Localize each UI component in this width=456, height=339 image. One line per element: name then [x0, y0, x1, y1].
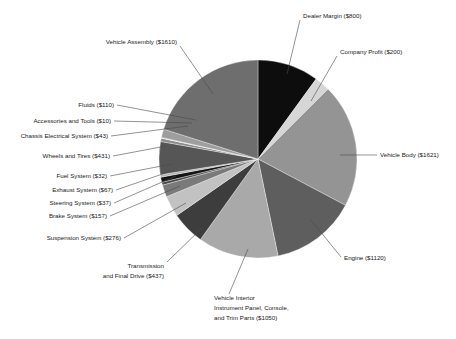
- label-steering: Steering System ($37): [49, 199, 111, 206]
- label-fuel: Fuel System ($32): [56, 172, 107, 179]
- label-exhaust: Exhaust System ($67): [52, 186, 113, 193]
- leader-line-transmission: [167, 227, 203, 262]
- label-fluids: Fluids ($110): [78, 101, 114, 108]
- label-brake: Brake System ($157): [49, 212, 107, 219]
- label-transmission-line2: and Final Drive ($437): [103, 272, 164, 279]
- label-vehicle-interior-line2: Instrument Panel, Console,: [214, 304, 289, 311]
- label-accessories: Accessories and Tools ($10): [33, 117, 111, 124]
- label-vehicle-interior-line1: Vehicle Interior: [214, 294, 255, 301]
- label-dealer-margin: Dealer Margin ($800): [303, 12, 361, 19]
- label-vehicle-assembly: Vehicle Assembly ($1610): [106, 38, 177, 45]
- pie-chart-figure: Dealer Margin ($800) Company Profit ($20…: [0, 0, 456, 339]
- label-suspension: Suspension System ($276): [47, 234, 121, 241]
- leader-line-wheels: [113, 146, 166, 156]
- label-engine: Engine ($1120): [344, 254, 386, 261]
- label-company-profit: Company Profit ($200): [340, 48, 402, 55]
- label-vehicle-interior-line3: and Trim Parts ($1050): [214, 314, 277, 321]
- label-wheels: Wheels and Tires ($431): [43, 152, 110, 159]
- label-transmission-line1: Transmission: [127, 262, 164, 269]
- pie-slices-group: [159, 60, 357, 258]
- leader-line-dealer-margin: [287, 20, 300, 74]
- pie-chart-svg: Dealer Margin ($800) Company Profit ($20…: [0, 0, 456, 339]
- leader-line-suspension: [124, 203, 186, 238]
- label-vehicle-body: Vehicle Body ($1621): [380, 151, 439, 158]
- label-chassis: Chassis Electrical System ($43): [21, 132, 108, 139]
